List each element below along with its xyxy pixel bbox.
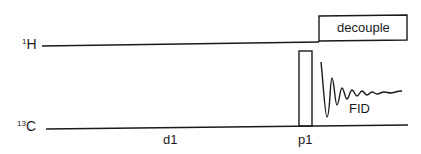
p1-pulse [299,51,312,126]
d1-label: d1 [163,133,177,146]
p1-label: p1 [298,133,312,146]
h1-baseline [42,42,319,46]
decouple-label: decouple [337,21,390,34]
c13-channel-label: 13C [17,119,36,133]
fid-label: FID [349,102,370,115]
h1-channel-label: 1H [22,37,37,51]
c13-baseline [46,125,408,129]
